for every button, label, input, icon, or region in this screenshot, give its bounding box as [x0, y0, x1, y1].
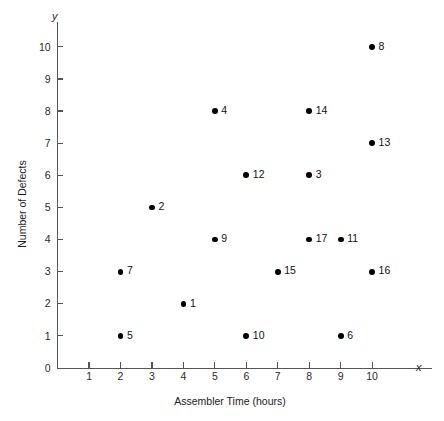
x-tick-label: 5 [202, 371, 228, 382]
data-point-marker [306, 172, 312, 178]
x-tick-mark [309, 362, 310, 368]
data-point-label: 5 [127, 330, 133, 341]
y-tick-label: 10 [25, 42, 51, 53]
y-tick-label: 2 [25, 298, 51, 309]
x-tick-mark [214, 362, 215, 368]
y-axis-line [57, 22, 58, 369]
x-tick-mark [183, 362, 184, 368]
y-tick-mark [57, 143, 63, 144]
x-tick-label: 1 [76, 371, 102, 382]
y-tick-mark [57, 335, 63, 336]
data-point-label: 12 [253, 169, 265, 180]
data-point-label: 3 [316, 169, 322, 180]
x-axis-line [57, 368, 432, 369]
x-axis-title: Assembler Time (hours) [140, 395, 320, 407]
data-point-marker [243, 172, 249, 178]
y-tick-label: 3 [25, 266, 51, 277]
data-point-label: 17 [316, 233, 328, 244]
x-tick-mark [120, 362, 121, 368]
y-tick-mark [57, 271, 63, 272]
y-tick-mark [57, 239, 63, 240]
data-point-label: 6 [347, 330, 353, 341]
data-point-marker [306, 237, 312, 243]
data-point-label: 9 [221, 233, 227, 244]
data-point-marker [149, 205, 155, 211]
y-tick-mark [57, 207, 63, 208]
data-point-label: 8 [379, 41, 385, 52]
data-point-marker [118, 333, 124, 339]
x-tick-mark [88, 362, 89, 368]
data-point-marker [118, 269, 124, 275]
y-tick-label: 0 [25, 363, 51, 374]
data-point-marker [275, 269, 281, 275]
x-tick-label: 6 [233, 371, 259, 382]
y-tick-label: 7 [25, 138, 51, 149]
y-tick-label: 5 [25, 202, 51, 213]
data-point-marker [369, 140, 375, 146]
data-point-label: 10 [253, 330, 265, 341]
data-point-marker [212, 237, 218, 243]
x-tick-mark [340, 362, 341, 368]
x-tick-mark [151, 362, 152, 368]
data-point-marker [212, 108, 218, 114]
y-tick-mark [57, 303, 63, 304]
data-point-label: 4 [221, 105, 227, 116]
x-tick-label: 8 [296, 371, 322, 382]
data-point-label: 13 [379, 137, 391, 148]
x-tick-mark [246, 362, 247, 368]
data-point-marker [338, 237, 344, 243]
data-point-label: 15 [284, 265, 296, 276]
data-point-label: 1 [190, 298, 196, 309]
data-point-label: 2 [158, 201, 164, 212]
data-point-marker [181, 301, 187, 307]
x-tick-label: 10 [359, 371, 385, 382]
y-tick-label: 8 [25, 106, 51, 117]
data-point-label: 7 [127, 265, 133, 276]
data-point-label: 16 [379, 265, 391, 276]
x-axis-symbol: x [416, 362, 422, 373]
data-point-label: 11 [347, 233, 358, 244]
data-point-marker [369, 44, 375, 50]
x-tick-mark [372, 362, 373, 368]
y-tick-label: 6 [25, 170, 51, 181]
scatter-plot: y x Number of Defects Assembler Time (ho… [0, 0, 444, 421]
data-point-marker [338, 333, 344, 339]
data-point-label: 14 [316, 105, 328, 116]
data-point-marker [306, 108, 312, 114]
y-tick-mark [57, 78, 63, 79]
x-tick-label: 3 [139, 371, 165, 382]
x-tick-label: 9 [328, 371, 354, 382]
x-tick-label: 7 [265, 371, 291, 382]
data-point-marker [243, 333, 249, 339]
x-tick-label: 4 [170, 371, 196, 382]
y-tick-mark [57, 175, 63, 176]
data-point-marker [369, 269, 375, 275]
x-tick-label: 2 [108, 371, 134, 382]
y-tick-label: 1 [25, 331, 51, 342]
y-tick-label: 9 [25, 74, 51, 85]
x-tick-mark [277, 362, 278, 368]
y-axis-symbol: y [52, 11, 58, 22]
y-tick-label: 4 [25, 234, 51, 245]
y-tick-mark [57, 46, 63, 47]
y-tick-mark [57, 110, 63, 111]
